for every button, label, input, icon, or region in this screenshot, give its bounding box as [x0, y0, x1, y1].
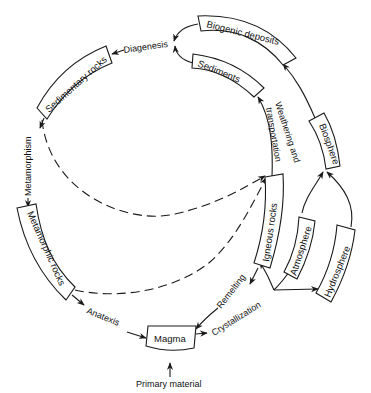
- node-metamorphic-rocks: Metamorphic rocks: [17, 204, 75, 300]
- arrow-igneous-to-remelting: [250, 268, 258, 284]
- label-diagenesis: Diagenesis: [123, 39, 169, 55]
- node-igneous-rocks: Igneous rocks: [254, 174, 283, 268]
- dashed-connectors: [42, 120, 266, 294]
- node-sedimentary-rocks: Sedimentary rocks: [37, 46, 112, 119]
- node-hydrosphere: Hydrosphere: [316, 225, 355, 302]
- label-metamorphism: Metamorphism: [23, 136, 33, 196]
- node-magma-label: Magma: [154, 333, 186, 344]
- node-sediments: Sediments: [192, 54, 264, 97]
- label-remelting: Remelting: [215, 272, 248, 310]
- dashed-sedimentary-to-weathering: [42, 120, 265, 216]
- arrow-anatexis-to-magma: [127, 332, 146, 338]
- label-anatexis: Anatexis: [85, 306, 121, 328]
- rock-cycle-diagram: Biogenic deposits Sediments Sedimentary …: [0, 0, 371, 393]
- arrow-hydrosphere-to-biosphere: [327, 172, 352, 227]
- label-primary-material: Primary material: [136, 379, 202, 389]
- arrow-atmosphere-to-biosphere: [302, 172, 323, 213]
- arrow-sediments-to-diagenesis: [175, 46, 193, 63]
- node-atmosphere: Atmosphere: [284, 217, 315, 279]
- arrow-metamorphic-to-anatexis: [72, 295, 84, 305]
- arrow-biogenic-to-diagenesis: [174, 24, 198, 41]
- arrow-magma-to-crystallization: [196, 333, 207, 334]
- arrow-biosphere-to-biogenic: [283, 64, 315, 118]
- arrow-diagenesis-to-sedimentary: [112, 50, 124, 54]
- arrow-hub-to-hydrosphere: [274, 289, 318, 290]
- node-magma: Magma: [146, 326, 196, 350]
- node-biosphere: Biosphere: [309, 113, 342, 169]
